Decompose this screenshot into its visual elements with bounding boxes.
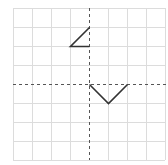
- coordinate-grid-diagram: [0, 0, 168, 165]
- grid-lines: [13, 8, 166, 161]
- shape-upper-left: [71, 28, 90, 47]
- axes: [13, 8, 168, 160]
